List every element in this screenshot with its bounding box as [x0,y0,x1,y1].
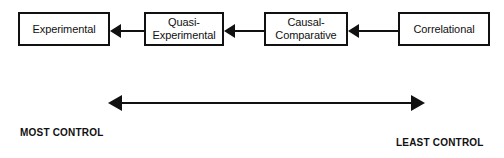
arrow-shaft [121,102,412,104]
arrow-left-icon-quasi-to-experimental [110,24,144,38]
arrowhead-left-icon [108,95,122,111]
caption-most-control: MOST CONTROL [20,127,104,138]
diagram-canvas: Experimental Quasi- Experimental Causal-… [0,0,504,158]
arrow-shaft [358,30,398,32]
node-correlational: Correlational [398,12,490,46]
node-experimental: Experimental [18,12,110,46]
double-headed-arrow-icon [108,95,425,111]
node-causal-comparative-label: Causal- Comparative [272,16,339,42]
caption-least-control: LEAST CONTROL [396,137,484,148]
arrow-shaft [234,30,264,32]
node-correlational-label: Correlational [410,23,477,36]
node-quasi-experimental: Quasi- Experimental [144,12,224,46]
arrow-left-icon-correlational-to-causal [348,24,398,38]
node-causal-comparative: Causal- Comparative [264,12,348,46]
arrow-shaft [120,30,144,32]
arrowhead-right-icon [411,95,425,111]
node-quasi-experimental-label: Quasi- Experimental [150,16,219,42]
arrow-left-icon-causal-to-quasi [224,24,264,38]
node-experimental-label: Experimental [30,23,99,36]
